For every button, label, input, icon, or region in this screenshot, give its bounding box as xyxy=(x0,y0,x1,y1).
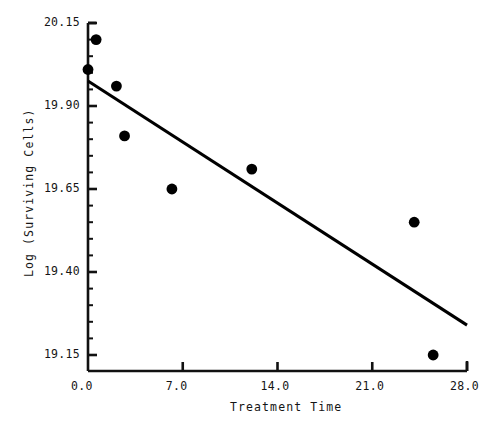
x-tick-label: 21.0 xyxy=(355,379,384,393)
data-point xyxy=(83,64,94,75)
data-point xyxy=(409,217,420,228)
x-axis-title: Treatment Time xyxy=(230,400,342,414)
data-point xyxy=(111,81,122,92)
data-point xyxy=(91,34,102,45)
data-point xyxy=(119,130,130,141)
scatter-plot-figure: 0.07.014.021.028.0 19.1519.4019.6519.902… xyxy=(0,0,501,433)
x-tick-label: 14.0 xyxy=(261,379,290,393)
axes-group xyxy=(88,23,467,371)
x-tick-label: 0.0 xyxy=(71,379,93,393)
x-tick-label: 7.0 xyxy=(166,379,188,393)
data-points-group xyxy=(83,34,439,360)
data-point xyxy=(167,184,178,195)
data-point xyxy=(428,350,439,361)
data-point xyxy=(246,164,257,175)
y-tick-label: 19.15 xyxy=(28,347,80,361)
y-axis-title: Log (Surviving Cells) xyxy=(22,109,36,278)
regression-line xyxy=(88,81,467,325)
x-tick-label: 28.0 xyxy=(450,379,479,393)
tick-marks-group xyxy=(88,23,467,371)
plot-canvas xyxy=(0,0,501,433)
y-tick-label: 20.15 xyxy=(28,15,80,29)
